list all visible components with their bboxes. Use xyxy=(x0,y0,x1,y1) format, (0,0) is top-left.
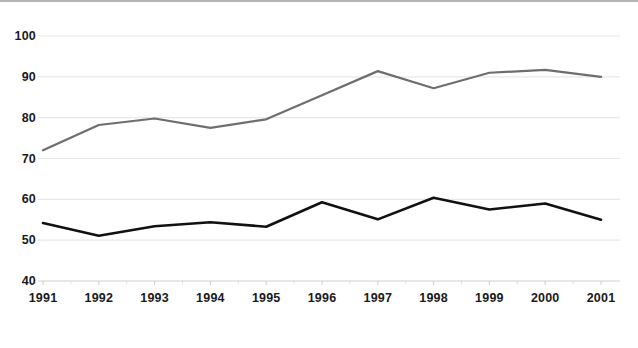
line-chart: 405060708090100 199119921993199419951996… xyxy=(0,0,638,348)
series-line-upper-series xyxy=(43,70,601,150)
y-axis-tick-label: 80 xyxy=(2,111,36,125)
x-axis-tick-label: 1994 xyxy=(182,291,238,305)
x-axis-tick-label: 1992 xyxy=(71,291,127,305)
x-axis-tick-label: 2000 xyxy=(517,291,573,305)
x-axis-tick-label: 2001 xyxy=(573,291,629,305)
x-axis-tick-label: 1999 xyxy=(461,291,517,305)
y-axis-tick-label: 40 xyxy=(2,274,36,288)
series-line-lower-series xyxy=(43,198,601,236)
y-axis-tick-label: 90 xyxy=(2,70,36,84)
y-axis-tick-label: 60 xyxy=(2,192,36,206)
x-axis-tick-label: 1993 xyxy=(127,291,183,305)
series-lines xyxy=(43,70,601,236)
y-axis-tick-label: 70 xyxy=(2,152,36,166)
x-axis-tick-label: 1991 xyxy=(15,291,71,305)
y-axis-tick-label: 100 xyxy=(2,29,36,43)
gridlines xyxy=(38,36,620,240)
y-axis-tick-label: 50 xyxy=(2,233,36,247)
x-axis-tick-label: 1995 xyxy=(238,291,294,305)
x-axis-tick-label: 1997 xyxy=(350,291,406,305)
x-axis-tick-label: 1996 xyxy=(294,291,350,305)
x-axis-tick-label: 1998 xyxy=(406,291,462,305)
